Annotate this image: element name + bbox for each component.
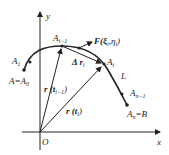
point-an-minus-1 (121, 93, 124, 96)
x-axis-label: x (156, 137, 161, 147)
curve-l (24, 46, 127, 105)
label-an-minus-1: An−1 (129, 88, 146, 99)
point-a0 (22, 68, 26, 72)
point-an (125, 103, 129, 107)
line-integral-diagram: y x O A1 A=A0 Ai−1 Ai L An−1 An=B F(ξi,η… (0, 0, 169, 155)
label-force: F(ξi,ηi) (93, 36, 120, 47)
point-a1 (29, 61, 32, 64)
label-an-eq-b: An=B (126, 109, 148, 120)
label-r-curr: r (ti) (66, 106, 82, 117)
label-r-prev: r (ti−1) (44, 84, 67, 95)
label-delta-r: Δ ri (71, 57, 85, 68)
vector-force (79, 42, 92, 48)
label-ai: Ai (106, 57, 115, 68)
vector-r-curr (40, 67, 101, 132)
point-ai (103, 63, 106, 66)
label-a1: A1 (11, 56, 21, 67)
label-ai-minus-1: Ai−1 (52, 33, 67, 44)
y-axis-label: y (45, 11, 50, 21)
label-a-eq-a0: A=A0 (8, 76, 29, 87)
label-curve-l: L (120, 71, 126, 81)
origin-label: O (42, 137, 49, 147)
